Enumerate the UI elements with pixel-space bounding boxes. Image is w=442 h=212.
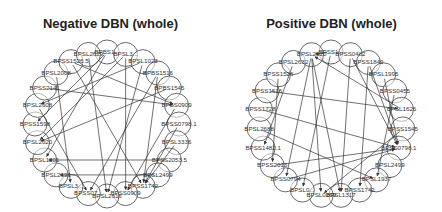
node-label: BPSL2499: [143, 171, 173, 178]
node-label: BPBS1516: [143, 69, 174, 76]
node-label: BPSL2691: [41, 171, 71, 178]
node-label: BPSL3...: [113, 50, 138, 57]
node-label: BPSS2013: [257, 161, 288, 168]
node-label: BPSS1616: [252, 87, 283, 94]
graph-edge: [360, 66, 368, 186]
graph-edge: [341, 59, 350, 192]
node-label: BPBS1545: [154, 84, 185, 91]
node-label: BPSS0482: [335, 50, 366, 57]
graph-edge: [41, 90, 166, 142]
node-label: BPSL1201: [30, 156, 60, 163]
node-label: BPSS1728: [245, 105, 276, 112]
node-label: BPSS1742: [128, 182, 159, 189]
node-label: BPSS07...: [74, 189, 103, 196]
node-label: BPSS1526.5: [53, 57, 89, 64]
graph-edge: [108, 66, 142, 193]
node-label: BPSS1849: [353, 58, 384, 65]
node-label: BPSL2008: [41, 69, 71, 76]
network-graphs: BPBS1...BPSL3...BPSL1023BPBS1516BPBS1545…: [0, 0, 442, 212]
node-label: BPSL2688: [244, 125, 274, 132]
node-label: BPSS1545: [388, 125, 419, 132]
positive-dbn-graph: BPSS1...BPSS0482BPSS1849BPSL1995BPSS0455…: [244, 40, 418, 207]
graph-edge: [49, 89, 173, 105]
node-label: BPSL2499: [375, 161, 405, 168]
node-label: BPSL0...: [290, 186, 315, 193]
node-label: BPSS1482.1: [245, 144, 281, 151]
node-label: BPSL2020: [23, 138, 53, 145]
graph-edge: [89, 58, 107, 192]
node-label: BPSL3...: [59, 182, 84, 189]
node-label: BPSL2608: [23, 101, 53, 108]
node-label: BPSL2632: [279, 58, 309, 65]
node-label: BPSL3336: [162, 138, 192, 145]
node-label: BPSL2629: [74, 50, 104, 57]
node-label: BPSS0794: [270, 175, 301, 182]
node-label: BPSS0455: [380, 87, 411, 94]
node-label: BPSS1526: [263, 70, 294, 77]
node-label: BPSL2520: [297, 50, 327, 57]
node-label: BPSS2141: [30, 84, 61, 91]
node-label: BPSS0798.1: [381, 144, 417, 151]
node-label: BPSS1598: [20, 120, 51, 127]
node-label: BPSL1937: [362, 175, 392, 182]
node-label: BPSL1626: [387, 105, 417, 112]
graph-edge: [271, 91, 397, 108]
node-label: BPBS0909: [161, 101, 192, 108]
negative-dbn-graph: BPBS1...BPSL3...BPSL1023BPBS1516BPBS1545…: [20, 40, 197, 208]
node-label: BPSS0798.1: [161, 120, 197, 127]
node-label: BPSL1023: [128, 57, 158, 64]
node-label: BPSL1995: [369, 70, 399, 77]
node-label: BPSS2053.5: [152, 156, 188, 163]
